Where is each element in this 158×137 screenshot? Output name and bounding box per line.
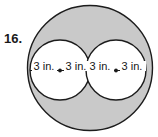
center-point-left (58, 69, 62, 73)
geometry-figure: 16. 3 in. 3 in. 3 in. 3 in. (0, 0, 158, 137)
circles-diagram: 3 in. 3 in. 3 in. 3 in. (0, 0, 158, 137)
dimension-label-right-outer: 3 in. (122, 60, 143, 72)
dimension-label-left-inner: 3 in. (66, 60, 87, 72)
dimension-label-left-outer: 3 in. (34, 60, 55, 72)
dimension-label-right-inner: 3 in. (90, 60, 111, 72)
center-point-right (114, 69, 118, 73)
